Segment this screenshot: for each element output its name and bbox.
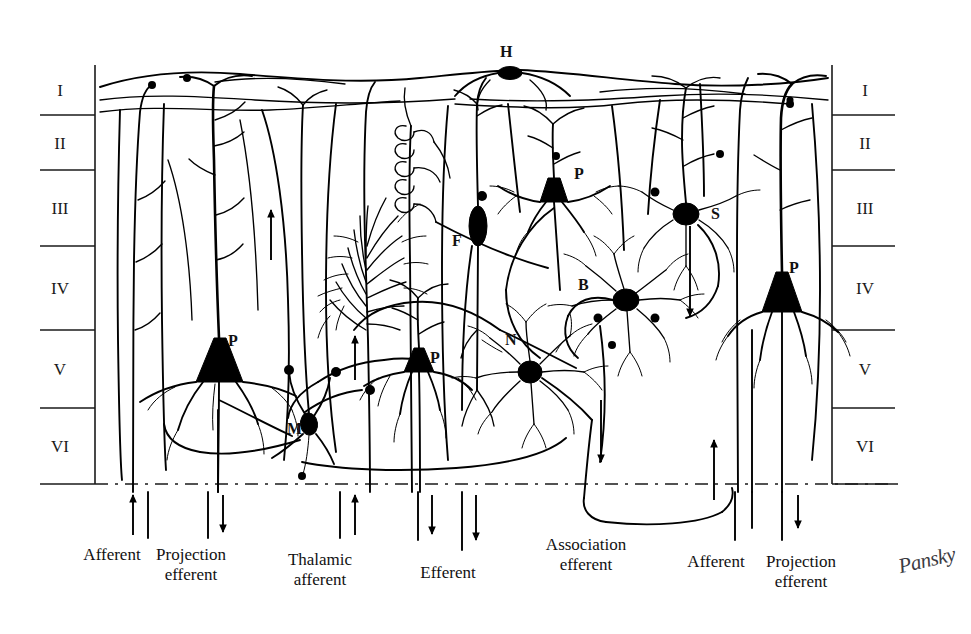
cell-label-basket-cell: B	[578, 277, 589, 293]
layer-label-right-I: I	[845, 82, 885, 99]
tract-label-projection-efferent-right: Projection efferent	[746, 552, 856, 591]
pyramidal-cell-right	[716, 74, 850, 492]
neurogliaform-cell	[452, 304, 608, 448]
tract-label-line: afferent	[266, 570, 374, 590]
tract-label-efferent: Efferent	[400, 563, 496, 583]
cell-label-stellate-cell: S	[711, 206, 720, 222]
stellate-cell	[618, 76, 760, 318]
afferent-fiber-left	[133, 85, 165, 492]
tract-label-association-efferent: Association efferent	[524, 535, 648, 574]
layer-ruler-right	[832, 65, 895, 484]
cell-label-pyramidal-cell-upper: P	[574, 166, 584, 182]
tract-label-line: efferent	[136, 565, 246, 585]
bottom-tract-arrows	[133, 492, 798, 550]
layer-label-left-VI: VI	[40, 438, 80, 455]
layer-ruler-left	[40, 65, 95, 484]
layer-label-right-III: III	[845, 200, 885, 217]
tract-label-line: Association	[524, 535, 648, 555]
layer-label-right-II: II	[845, 135, 885, 152]
tract-label-line: Projection	[136, 545, 246, 565]
cell-label-horizontal-cell: H	[500, 44, 512, 60]
layer-label-right-IV: IV	[845, 280, 885, 297]
cell-label-pyramidal-cell-large: P	[228, 333, 238, 349]
basket-cell	[548, 236, 704, 376]
tract-label-thalamic-afferent: Thalamic afferent	[266, 550, 374, 589]
layer-label-left-V: V	[40, 361, 80, 378]
tract-label-line: efferent	[746, 572, 856, 592]
tract-label-projection-efferent-left: Projection efferent	[136, 545, 246, 584]
layer-label-right-VI: VI	[845, 438, 885, 455]
layer-one-tangential-plexus	[100, 67, 828, 113]
layer-label-left-IV: IV	[40, 280, 80, 297]
tract-label-line: Efferent	[400, 563, 496, 583]
cell-label-fusiform-cell: F	[452, 233, 462, 249]
tract-label-line: efferent	[524, 555, 648, 575]
cortex-diagram-page: .ln { fill:none; stroke:#000; stroke-wid…	[0, 0, 971, 634]
tract-label-line: Thalamic	[266, 550, 374, 570]
association-efferent-loop	[584, 326, 733, 524]
layer-label-left-III: III	[40, 200, 80, 217]
cortex-diagram-canvas: .ln { fill:none; stroke:#000; stroke-wid…	[0, 0, 971, 634]
layer-label-left-I: I	[40, 82, 80, 99]
cell-label-pyramidal-cell-mid: P	[430, 350, 440, 366]
afferent-fiber-right	[737, 78, 752, 492]
tract-label-line: Projection	[746, 552, 856, 572]
cell-label-neurogliaform-cell: N	[505, 332, 517, 348]
cell-label-pyramidal-cell-right: P	[789, 260, 799, 276]
cell-label-martinotti-cell: M	[287, 421, 302, 437]
layer-label-right-V: V	[845, 361, 885, 378]
layer-label-left-II: II	[40, 135, 80, 152]
